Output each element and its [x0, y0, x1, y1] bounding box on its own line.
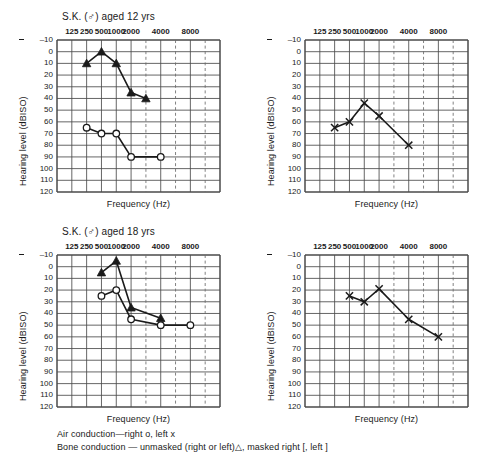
x-axis-title: Frequency (Hz): [57, 414, 220, 424]
panel-top-left: S.K. (♂) aged 12 yrs –100102030405060708…: [0, 0, 255, 215]
legend-bone-masked: , masked right [, left ]: [242, 442, 328, 452]
series-0: [331, 100, 412, 149]
y-tick-label: –10: [23, 36, 53, 44]
panel-bottom-right: –100102030405060708090100110120125250500…: [248, 215, 501, 430]
y-tick-label: 10: [271, 59, 301, 67]
y-tick-label: 20: [23, 71, 53, 79]
y-axis-title: Hearing level (dBISO): [266, 96, 276, 186]
y-axis-top-tick: [19, 39, 24, 40]
legend-bone-label: Bone conduction: [57, 442, 126, 452]
legend-bone-conduction: Bone conduction — unmasked (right or lef…: [57, 441, 328, 454]
y-tick-label: 30: [23, 83, 53, 91]
y-tick-label: –10: [23, 251, 53, 259]
series-1: [83, 124, 164, 160]
x-axis-title: Frequency (Hz): [57, 199, 220, 209]
audiogram-top-right: –100102030405060708090100110120125250500…: [248, 0, 501, 215]
x-axis-title: Frequency (Hz): [305, 414, 468, 424]
y-tick-label: 0: [23, 263, 53, 271]
y-tick-label: 0: [271, 263, 301, 271]
legend-air-symbols: right o, left x: [125, 429, 176, 439]
y-tick-label: –10: [271, 251, 301, 259]
legend-bone-unmasked: unmasked (right or left): [140, 442, 235, 452]
y-tick-label: 10: [23, 59, 53, 67]
y-tick-label: 20: [271, 286, 301, 294]
y-tick-label: 10: [23, 274, 53, 282]
y-tick-label: 20: [23, 286, 53, 294]
y-axis-title: Hearing level (dBISO): [18, 311, 28, 401]
x-tick-label: 8000: [420, 243, 456, 251]
y-axis-top-tick: [267, 254, 272, 255]
triangle-icon: △: [235, 442, 242, 452]
y-tick-label: 0: [23, 48, 53, 56]
audiogram-top-left: –100102030405060708090100110120125250500…: [0, 0, 255, 215]
legend: Air conduction—right o, left x Bone cond…: [57, 428, 328, 454]
legend-dash-2: —: [128, 442, 137, 452]
y-tick-label: 120: [271, 403, 301, 411]
y-axis-title: Hearing level (dBISO): [18, 96, 28, 186]
audiogram-bottom-right: –100102030405060708090100110120125250500…: [248, 215, 501, 430]
y-tick-label: 30: [271, 83, 301, 91]
y-tick-label: 120: [23, 403, 53, 411]
audiogram-bottom-left: –100102030405060708090100110120125250500…: [0, 215, 255, 430]
y-tick-label: 20: [271, 71, 301, 79]
y-axis-top-tick: [267, 39, 272, 40]
y-tick-label: 120: [23, 188, 53, 196]
x-tick-label: 8000: [420, 28, 456, 36]
x-tick-label: 8000: [172, 28, 208, 36]
y-tick-label: 120: [271, 188, 301, 196]
legend-air-label: Air conduction: [57, 429, 115, 439]
y-axis-title: Hearing level (dBISO): [266, 311, 276, 401]
y-tick-label: 30: [23, 298, 53, 306]
y-tick-label: 30: [271, 298, 301, 306]
x-axis-title: Frequency (Hz): [305, 199, 468, 209]
panel-bottom-left: S.K. (♂) aged 18 yrs –100102030405060708…: [0, 215, 255, 430]
legend-air-conduction: Air conduction—right o, left x: [57, 428, 328, 441]
y-tick-label: –10: [271, 36, 301, 44]
legend-dash: —: [115, 429, 124, 439]
x-tick-label: 8000: [172, 243, 208, 251]
y-tick-label: 0: [271, 48, 301, 56]
y-tick-label: 10: [271, 274, 301, 282]
panel-top-right: –100102030405060708090100110120125250500…: [248, 0, 501, 215]
y-axis-top-tick: [19, 254, 24, 255]
